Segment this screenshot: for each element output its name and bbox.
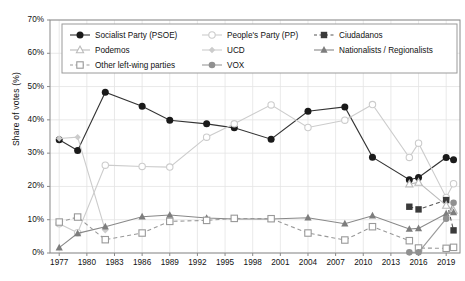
legend-label: VOX xyxy=(227,61,245,70)
y-tick-label: 0% xyxy=(8,248,44,257)
legend-label: Other left-wing parties xyxy=(95,61,175,70)
legend-label: Nationalists / Regionalists xyxy=(339,46,433,55)
x-tick-label: 2019 xyxy=(430,258,462,267)
y-tick-label: 20% xyxy=(8,181,44,190)
line-chart: Socialist Party (PSOE)People's Party (PP… xyxy=(0,0,465,281)
legend-label: Podemos xyxy=(95,46,130,55)
y-tick-label: 40% xyxy=(8,115,44,124)
y-tick-label: 60% xyxy=(8,48,44,57)
chart-legend: Socialist Party (PSOE)People's Party (PP… xyxy=(62,24,457,73)
legend-label: Socialist Party (PSOE) xyxy=(95,31,178,40)
y-tick-label: 50% xyxy=(8,82,44,91)
y-tick-label: 10% xyxy=(8,215,44,224)
y-tick-label: 70% xyxy=(8,15,44,24)
series-5 xyxy=(56,208,458,250)
series-1 xyxy=(56,101,457,236)
legend-label: People's Party (PP) xyxy=(227,31,298,40)
series-2 xyxy=(406,197,457,234)
legend-label: UCD xyxy=(227,46,245,55)
chart-root: Share of votes (%) Socialist Party (PSOE… xyxy=(0,0,465,281)
y-tick-label: 30% xyxy=(8,148,44,157)
series-0 xyxy=(56,89,457,184)
legend-label: Ciudadanos xyxy=(339,31,383,40)
series-4 xyxy=(56,134,108,234)
